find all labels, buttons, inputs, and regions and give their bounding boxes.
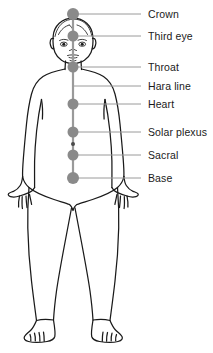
chakra-label-crown: Crown [148, 9, 179, 20]
left-leg-outer [28, 188, 37, 321]
right-leg-outer [110, 188, 119, 321]
left-toes-detail [30, 332, 44, 341]
left-hip-outline [23, 177, 70, 205]
chakra-dot-crown[interactable] [67, 8, 79, 20]
right-leg-inner [75, 208, 93, 320]
left-hand-thumb-side [20, 188, 35, 196]
chakra-dot-solar-plexus[interactable] [68, 127, 79, 138]
human-figure-illustration [0, 0, 213, 353]
chakra-label-hara-line: Hara line [148, 81, 191, 92]
leader-lines-group [73, 14, 141, 178]
right-armpit-line [104, 100, 105, 120]
right-toes-detail [102, 332, 116, 341]
chakra-label-heart: Heart [148, 99, 174, 110]
navel-marker [71, 142, 75, 146]
right-body-outline [82, 69, 124, 177]
chakra-label-solar-plexus: Solar plexus [148, 127, 207, 138]
right-pupil [81, 43, 84, 46]
chakra-label-base: Base [148, 173, 172, 184]
right-eyebrow [78, 39, 87, 40]
right-hip-outline [77, 177, 124, 205]
left-pupil [62, 43, 65, 46]
chakra-body-diagram: Crown Third eye Throat Hara line Heart S… [0, 0, 213, 353]
hair-strand-left [59, 25, 70, 35]
right-inner-arm-line [105, 100, 112, 188]
chakra-label-third-eye: Third eye [148, 31, 193, 42]
chakra-label-sacral: Sacral [148, 150, 178, 161]
left-leg-inner [54, 208, 72, 320]
left-body-outline [23, 69, 65, 177]
right-hand-thumb-side [112, 188, 127, 196]
chakra-label-throat: Throat [148, 62, 179, 73]
chakra-dot-heart[interactable] [68, 99, 79, 110]
left-eyebrow [60, 39, 69, 40]
neck-outline-right [81, 61, 82, 70]
chakra-dot-throat[interactable] [68, 62, 79, 73]
chakra-dot-sacral[interactable] [68, 150, 79, 161]
left-armpit-line [42, 100, 43, 120]
chakra-dot-base[interactable] [67, 172, 79, 184]
neck-outline [65, 61, 66, 70]
hair-strand-right [77, 25, 88, 35]
chakra-dot-third-eye[interactable] [68, 31, 79, 42]
left-inner-arm-line [35, 100, 42, 188]
